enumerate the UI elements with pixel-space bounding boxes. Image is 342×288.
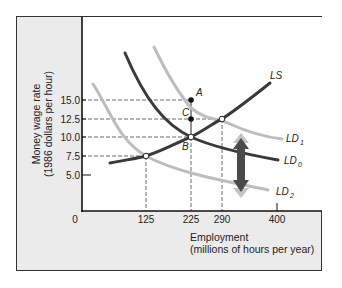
svg-text:290: 290 [214, 214, 231, 225]
svg-text:7.5: 7.5 [66, 151, 80, 162]
svg-text:1: 1 [300, 139, 304, 146]
point-a [188, 97, 194, 103]
svg-text:125: 125 [138, 214, 155, 225]
svg-text:12.5: 12.5 [61, 114, 81, 125]
svg-text:LD: LD [284, 155, 297, 166]
x-tick-labels: 0 125 225 290 400 [72, 214, 286, 225]
y-tick-labels: 15.0 12.5 10.0 7.5 5.0 [61, 95, 81, 181]
chart-svg: A C B LS LD 1 LD 0 LD 2 15.0 12.5 10.0 7… [0, 0, 342, 288]
svg-text:10.0: 10.0 [61, 132, 81, 143]
svg-text:LD: LD [286, 133, 299, 144]
svg-text:0: 0 [298, 161, 302, 168]
svg-text:225: 225 [183, 214, 200, 225]
point-ls-ld2 [143, 153, 149, 159]
svg-text:15.0: 15.0 [61, 95, 81, 106]
label-c: C [182, 107, 190, 118]
svg-text:2: 2 [289, 192, 294, 199]
svg-text:5.0: 5.0 [66, 170, 80, 181]
svg-text:400: 400 [269, 214, 286, 225]
label-ls: LS [270, 70, 283, 81]
point-b [188, 134, 194, 140]
svg-text:LD: LD [276, 186, 289, 197]
label-b: B [182, 141, 189, 152]
svg-text:0: 0 [72, 214, 78, 225]
point-ls-ld1 [219, 116, 225, 122]
label-a: A [195, 87, 203, 98]
